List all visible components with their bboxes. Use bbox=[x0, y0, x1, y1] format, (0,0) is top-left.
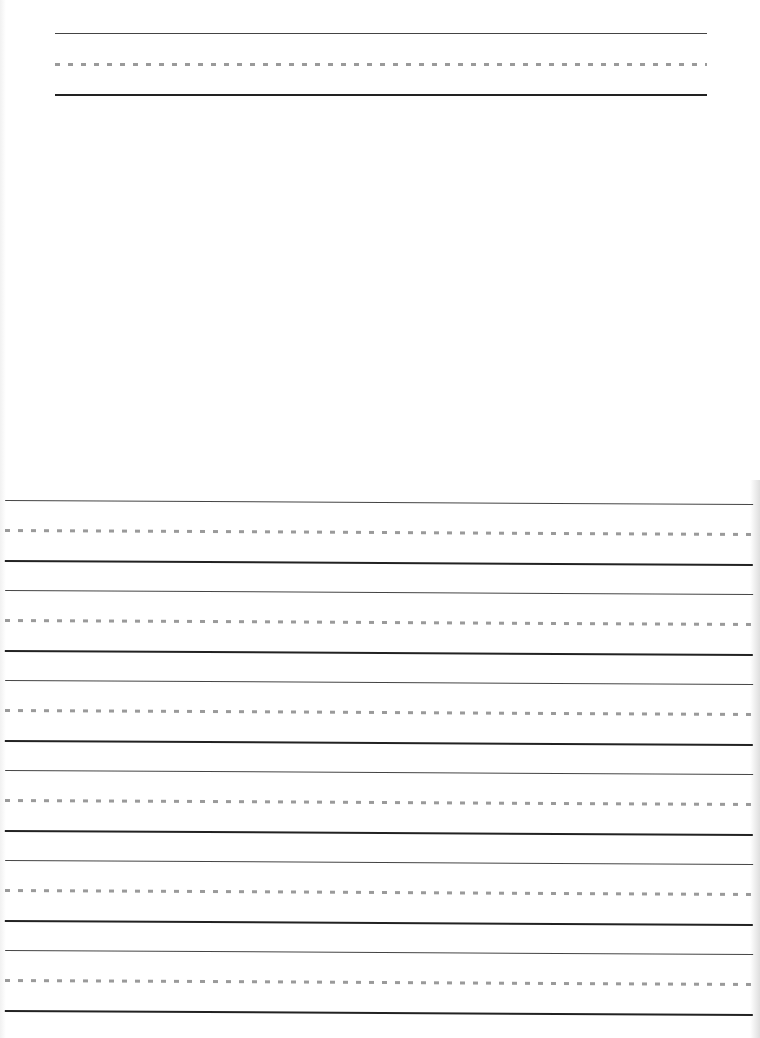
dashed-midline bbox=[5, 889, 753, 896]
drawing-area[interactable] bbox=[55, 100, 707, 490]
writing-paper bbox=[0, 0, 760, 1038]
top-line bbox=[5, 770, 753, 775]
baseline bbox=[5, 740, 753, 746]
baseline bbox=[5, 650, 753, 656]
top-line bbox=[5, 500, 753, 505]
top-line bbox=[55, 33, 707, 34]
writing-line-group bbox=[5, 680, 753, 747]
top-line bbox=[5, 860, 753, 865]
baseline bbox=[5, 560, 753, 566]
dashed-midline bbox=[5, 979, 753, 986]
writing-line-group bbox=[5, 770, 753, 837]
dashed-midline bbox=[5, 529, 753, 536]
writing-line-group bbox=[5, 950, 753, 1017]
baseline bbox=[5, 1010, 753, 1016]
top-line bbox=[5, 680, 753, 685]
top-line bbox=[5, 950, 753, 955]
writing-line-group bbox=[5, 590, 753, 657]
dashed-midline bbox=[5, 709, 753, 716]
baseline bbox=[5, 920, 753, 926]
top-line bbox=[5, 590, 753, 595]
baseline bbox=[5, 830, 753, 836]
writing-line-group bbox=[5, 860, 753, 927]
dashed-midline bbox=[55, 63, 707, 66]
baseline bbox=[55, 94, 707, 96]
dashed-midline bbox=[5, 799, 753, 806]
writing-line-group bbox=[5, 500, 753, 567]
title-writing-lines bbox=[55, 33, 707, 97]
dashed-midline bbox=[5, 619, 753, 626]
